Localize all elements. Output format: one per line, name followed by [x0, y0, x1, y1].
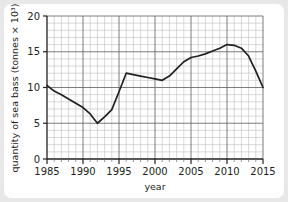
y-tick-label-5: 5	[34, 118, 40, 129]
x-tick-label-2015: 2015	[250, 166, 275, 177]
y-tick-label-10: 10	[27, 82, 40, 93]
x-tick-label-2000: 2000	[142, 166, 167, 177]
x-tick-label-2010: 2010	[214, 166, 239, 177]
y-tick-label-0: 0	[34, 154, 40, 165]
x-tick-label-2005: 2005	[178, 166, 203, 177]
x-axis-major-ticks	[47, 159, 263, 164]
x-axis-title: year	[144, 181, 165, 192]
y-tick-label-20: 20	[27, 11, 40, 22]
y-axis-title: quantity of sea bass (tonnes × 10³)	[9, 4, 20, 173]
x-tick-label-1995: 1995	[106, 166, 131, 177]
y-tick-label-15: 15	[27, 46, 40, 57]
x-tick-label-1985: 1985	[34, 166, 59, 177]
line-chart: 0 5 10 15 20 1985 1990 1995 2000 2005 20…	[0, 0, 288, 202]
x-tick-label-1990: 1990	[70, 166, 95, 177]
